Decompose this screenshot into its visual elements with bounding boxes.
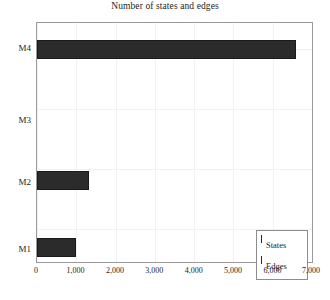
- xtick-label-6000: 6,000: [264, 266, 282, 275]
- chart-figure: Number of states and edges State: [0, 0, 330, 300]
- xtick-label-4000: 4,000: [185, 266, 203, 275]
- xtick-label-3000: 3,000: [145, 266, 163, 275]
- bar-m4: [37, 40, 296, 59]
- bar-series: [37, 23, 312, 262]
- xtick-label-7000: 7,000: [302, 266, 320, 275]
- bar-m1: [37, 238, 76, 257]
- legend-label-states: States: [266, 240, 286, 250]
- legend-swatch-icon: [261, 235, 262, 243]
- caption-remnant: [0, 290, 330, 300]
- legend-swatch-icon: [261, 256, 262, 264]
- xtick-label-5000: 5,000: [224, 266, 242, 275]
- xtick-label-2000: 2,000: [106, 266, 124, 275]
- chart-title: Number of states and edges: [0, 1, 330, 11]
- plot-area: States Edges: [36, 22, 313, 263]
- ytick-label-m2: M2: [0, 177, 31, 187]
- xtick-label-1000: 1,000: [66, 266, 84, 275]
- legend-item-states: States: [261, 235, 304, 256]
- ytick-label-m4: M4: [0, 43, 31, 53]
- ytick-label-m1: M1: [0, 244, 31, 254]
- xtick-label-0: 0: [34, 266, 38, 275]
- bar-m2: [37, 171, 89, 190]
- ytick-label-m3: M3: [0, 115, 31, 125]
